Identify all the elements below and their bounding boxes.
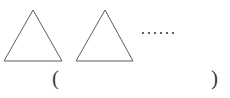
answer-blank[interactable] xyxy=(62,68,210,92)
ellipsis-dot xyxy=(166,32,168,34)
ellipsis-dots-group xyxy=(142,32,174,34)
ellipsis-dot xyxy=(148,32,150,34)
ellipsis-dot xyxy=(160,32,162,34)
ellipsis-dot xyxy=(172,32,174,34)
figure-canvas: ( ) xyxy=(0,0,230,98)
ellipsis-dot xyxy=(142,32,144,34)
open-parenthesis: ( xyxy=(52,68,59,89)
triangle-2-shape xyxy=(76,10,133,61)
ellipsis-dot xyxy=(154,32,156,34)
triangle-1-shape xyxy=(4,10,62,61)
close-parenthesis: ) xyxy=(211,68,218,89)
